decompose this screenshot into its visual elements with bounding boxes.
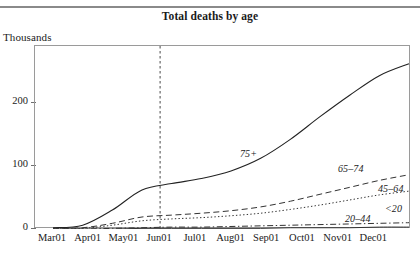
- x-axis-tick-label: Aug01: [216, 232, 245, 243]
- x-axis-tick-label: Jul01: [183, 232, 206, 243]
- x-axis-tick-label: May01: [109, 232, 139, 243]
- x-axis-tick-label: Apr01: [74, 232, 101, 243]
- x-axis-tick-label: Dec01: [360, 232, 387, 243]
- series-label-20: <20: [385, 203, 402, 214]
- y-axis-tick-label: 200: [2, 95, 28, 106]
- y-axis-tick-label: 0: [2, 221, 28, 232]
- series-label-75: 75+: [240, 148, 257, 159]
- plot-area: [34, 45, 410, 228]
- x-axis-tick-label: Sep01: [253, 232, 279, 243]
- x-axis-tick-label: Oct01: [289, 232, 315, 243]
- x-axis-tick-label: Jun01: [147, 232, 172, 243]
- y-axis-unit-label: Thousands: [3, 31, 52, 43]
- chart-canvas: [35, 46, 411, 229]
- series-label-20-44: 20–44: [345, 213, 371, 224]
- header-divider-rule: [0, 6, 420, 8]
- y-axis-tick-label: 100: [2, 158, 28, 169]
- page-title: Total deaths by age: [0, 10, 420, 22]
- x-axis-tick-label: Mar01: [38, 232, 66, 243]
- series-label-65-74: 65–74: [338, 163, 364, 174]
- x-axis-tick-label: Nov01: [323, 232, 352, 243]
- series-label-45-64: 45–64: [378, 183, 404, 194]
- series-line-75-: [53, 64, 409, 228]
